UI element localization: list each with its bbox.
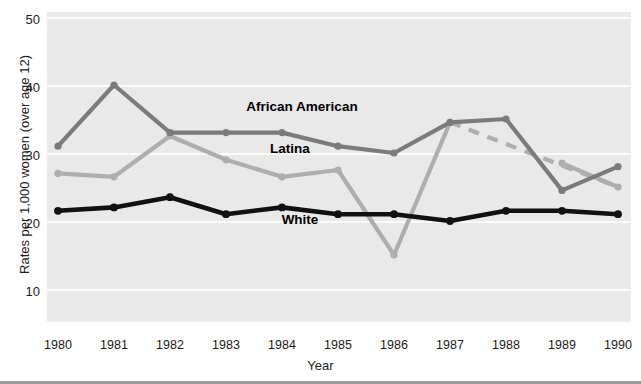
x-tick-label-1989: 1989 (534, 338, 590, 352)
x-tick-label-1983: 1983 (198, 338, 254, 352)
line-chart-figure: 50 40 30 20 10 Rates per 1,000 women (ov… (0, 0, 641, 384)
x-tick-label-1986: 1986 (366, 338, 422, 352)
x-tick-label-1982: 1982 (142, 338, 198, 352)
x-tick-label-1987: 1987 (422, 338, 478, 352)
series-latina (54, 119, 621, 259)
series-label-white: White (262, 212, 338, 227)
x-tick-label-1988: 1988 (478, 338, 534, 352)
y-axis-title: Rates per 1,000 women (over age 12) (17, 35, 32, 295)
x-tick-label-1981: 1981 (86, 338, 142, 352)
series-white (54, 193, 622, 225)
x-tick-label-1980: 1980 (30, 338, 86, 352)
x-axis-title: Year (0, 358, 641, 373)
series-plot (0, 0, 641, 384)
x-tick-label-1990: 1990 (590, 338, 641, 352)
x-tick-label-1985: 1985 (310, 338, 366, 352)
y-tick-label-50: 50 (10, 12, 40, 27)
series-label-african-american: African American (222, 99, 382, 114)
series-label-latina: Latina (250, 141, 330, 156)
x-tick-label-1984: 1984 (254, 338, 310, 352)
